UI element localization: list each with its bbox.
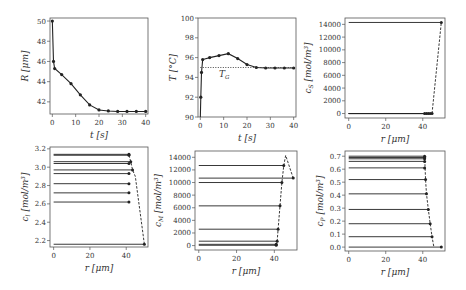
y-axis-label: cl [mol/m³] — [20, 172, 31, 221]
y-tick-label: 2.4 — [35, 219, 47, 227]
y-tick-label: 46 — [37, 58, 46, 66]
y-tick-label: 0.1 — [330, 231, 341, 239]
y-axis-label: R [μm] — [20, 50, 30, 83]
y-tick-label: 0 — [337, 110, 341, 118]
subplot-R: 0102030404244464850R [μm]t [s] — [20, 18, 150, 140]
x-axis-label: t [s] — [90, 130, 109, 140]
y-tick-label: 0.4 — [330, 192, 342, 200]
y-axis-label: cP [mol/m³] — [315, 175, 326, 226]
y-tick-label: 94 — [185, 74, 194, 82]
y-axis-label: T [°C] — [168, 53, 178, 81]
y-tick-label: 90 — [185, 114, 194, 122]
y-tick-label: 10000 — [169, 179, 191, 187]
data-marker — [125, 110, 128, 113]
x-tick-label: 0 — [197, 255, 201, 263]
data-marker — [440, 21, 443, 24]
x-tick-label: 10 — [219, 122, 228, 130]
y-axis-label: cM [mol/m³] — [153, 173, 164, 227]
data-marker — [200, 71, 203, 74]
x-tick-label: 40 — [289, 122, 298, 130]
y-tick-label: 0.5 — [330, 179, 341, 187]
data-marker — [201, 58, 204, 61]
subplot-T: 0102030409092949698100TGT [°C]t [s] — [168, 15, 298, 144]
y-tick-label: 0.3 — [330, 205, 341, 213]
data-marker — [127, 201, 130, 204]
x-tick-label: 20 — [243, 122, 252, 130]
data-marker — [255, 66, 258, 69]
y-axis-label: cS [mol/m³] — [303, 42, 314, 94]
data-marker — [53, 67, 56, 70]
y-tick-label: 50 — [37, 18, 46, 26]
y-tick-label: 96 — [185, 54, 194, 62]
x-tick-label: 40 — [122, 252, 131, 260]
figure: 0102030404244464850R [μm]t [s]0102030409… — [0, 0, 466, 290]
data-marker — [127, 162, 130, 165]
x-axis-label: r [μm] — [381, 267, 410, 277]
y-tick-label: 2.8 — [35, 182, 46, 190]
x-tick-label: 0 — [50, 119, 54, 127]
y-tick-label: 2.6 — [35, 200, 47, 208]
y-tick-label: 100 — [181, 15, 194, 23]
y-tick-label: 44 — [37, 78, 46, 86]
x-tick-label: 40 — [141, 119, 150, 127]
data-marker — [135, 110, 138, 113]
data-marker — [273, 66, 276, 69]
data-marker — [51, 19, 54, 22]
subplot-cl: 020402.22.42.62.83.03.2cl [mol/m³]r [μm] — [20, 145, 148, 273]
subplot-cS: 0204002000400060008000100001200014000cS … — [303, 18, 445, 144]
data-marker — [264, 66, 267, 69]
data-marker — [283, 66, 286, 69]
data-marker — [144, 110, 147, 113]
data-marker — [127, 182, 130, 185]
x-tick-label: 20 — [381, 256, 390, 264]
axes-frame — [50, 18, 148, 114]
y-tick-label: 42 — [37, 98, 46, 106]
y-tick-label: 10000 — [319, 46, 341, 54]
x-tick-label: 0 — [198, 122, 202, 130]
y-tick-label: 0.2 — [330, 218, 341, 226]
data-marker — [60, 73, 63, 76]
y-tick-label: 0.7 — [330, 153, 341, 161]
data-marker — [245, 63, 248, 66]
y-tick-label: 0 — [187, 242, 191, 250]
y-tick-label: 12000 — [169, 166, 191, 174]
y-tick-label: 14000 — [319, 21, 341, 29]
data-marker — [440, 246, 443, 249]
y-tick-label: 8000 — [173, 192, 191, 200]
data-marker — [236, 57, 239, 60]
axes-frame — [345, 151, 445, 251]
y-tick-label: 0.6 — [330, 166, 342, 174]
y-tick-label: 4000 — [323, 85, 341, 93]
x-axis-label: r [μm] — [232, 266, 261, 276]
y-tick-label: 6000 — [323, 72, 341, 80]
axes-frame — [345, 18, 445, 118]
y-tick-label: 4000 — [173, 217, 191, 225]
subplot-cM: 0204002000400060008000100001200014000cM … — [153, 151, 297, 276]
x-tick-label: 20 — [232, 255, 241, 263]
data-marker — [88, 103, 91, 106]
x-axis-label: r [μm] — [381, 134, 410, 144]
data-marker — [292, 66, 295, 69]
x-tick-label: 0 — [346, 123, 350, 131]
data-marker — [227, 52, 230, 55]
y-tick-label: 6000 — [173, 204, 191, 212]
y-tick-label: 8000 — [323, 59, 341, 67]
data-marker — [127, 191, 130, 194]
x-tick-label: 40 — [270, 255, 279, 263]
x-tick-label: 20 — [381, 123, 390, 131]
data-marker — [52, 60, 55, 63]
x-tick-label: 30 — [266, 122, 275, 130]
data-marker — [79, 93, 82, 96]
y-tick-label: 14000 — [169, 154, 191, 162]
x-tick-label: 40 — [418, 256, 427, 264]
x-tick-label: 0 — [346, 256, 350, 264]
y-tick-label: 0.0 — [330, 244, 341, 252]
data-marker — [107, 109, 110, 112]
x-axis-label: r [μm] — [85, 263, 114, 273]
x-axis-label: t [s] — [238, 133, 257, 143]
data-marker — [217, 54, 220, 57]
x-tick-label: 10 — [71, 119, 80, 127]
y-tick-label: 98 — [185, 34, 194, 42]
x-tick-label: 30 — [118, 119, 127, 127]
x-tick-label: 20 — [85, 252, 94, 260]
